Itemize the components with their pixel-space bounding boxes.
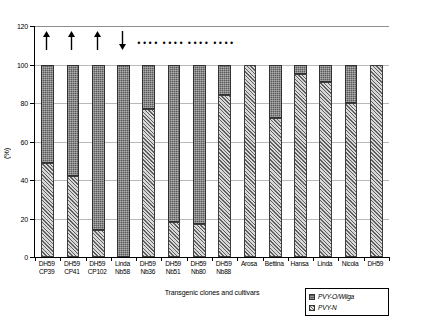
stacked-bar: [294, 26, 307, 257]
bar-segment-pvy-o: [294, 65, 307, 75]
x-axis-label-line: CP102: [85, 268, 110, 276]
bar-segment-pvy-n: [168, 222, 181, 257]
bar-group: [319, 26, 332, 257]
bar-segment-pvy-o: [67, 65, 80, 177]
dots-marker-glyphs: ••••: [211, 40, 236, 48]
bar-segment-pvy-o: [41, 65, 54, 163]
bar-group: [218, 26, 231, 257]
legend-label-pvy-n: PVY-N: [318, 304, 337, 311]
arrow-up-icon: [34, 31, 59, 50]
x-axis-label: DH59Nb88: [211, 260, 236, 277]
stacked-bar: [67, 26, 80, 257]
stacked-bar: [92, 26, 105, 257]
x-axis-label-line: Bettina: [262, 260, 287, 268]
x-axis-label: DH59CP102: [85, 260, 110, 277]
bar-segment-pvy-n: [142, 109, 155, 257]
stacked-bar: [345, 26, 358, 257]
bar-segment-pvy-o: [92, 65, 105, 231]
stacked-bar: [41, 26, 54, 257]
x-axis-label-line: DH59: [85, 260, 110, 268]
legend: PVY-O/Wilga PVY-N: [305, 288, 389, 316]
bar-segment-pvy-o: [319, 65, 332, 82]
arrow-down-icon: [110, 31, 135, 50]
x-axis-labels: DH59CP39DH59CP41DH59CP102LindaNb58DH59Nb…: [34, 260, 389, 288]
y-axis-tick: [30, 180, 35, 181]
y-axis-tick: [30, 142, 35, 143]
x-axis-label-line: CP39: [34, 268, 59, 276]
bar-segment-pvy-n: [244, 65, 257, 258]
x-axis-label-line: Nb36: [135, 268, 160, 276]
y-axis-tick-label: 100: [17, 61, 28, 68]
x-axis-label-line: Hansa: [287, 260, 312, 268]
stacked-bar: [319, 26, 332, 257]
x-axis-label: DH59Nb51: [160, 260, 185, 277]
bar-group: [41, 26, 54, 257]
dots-marker-icon: ••••: [135, 40, 160, 48]
stacked-bar: [142, 26, 155, 257]
x-axis-label-line: DH59: [135, 260, 160, 268]
dots-marker-glyphs: ••••: [186, 40, 211, 48]
x-axis-label-line: DH59: [186, 260, 211, 268]
arrow-up-icon: [59, 31, 84, 50]
bar-segment-pvy-n: [67, 176, 80, 257]
bar-series-group: [35, 26, 389, 257]
x-axis-label-line: Nb58: [110, 268, 135, 276]
bar-segment-pvy-n: [370, 65, 383, 258]
dots-marker-icon: ••••: [211, 40, 236, 48]
y-axis-tick: [30, 26, 35, 27]
stacked-bar: [244, 26, 257, 257]
bar-segment-pvy-o: [269, 65, 282, 119]
legend-label-pvy-o: PVY-O/Wilga: [318, 293, 354, 300]
y-axis-tick-label: 120: [17, 23, 28, 30]
x-axis-label-line: DH59: [211, 260, 236, 268]
stacked-bar: [218, 26, 231, 257]
y-axis-title: (%): [2, 148, 11, 159]
bar-group: [67, 26, 80, 257]
bar-group: [244, 26, 257, 257]
dots-marker-icon: ••••: [186, 40, 211, 48]
stacked-bar: [269, 26, 282, 257]
y-axis-tick: [30, 219, 35, 220]
y-axis-tick: [30, 103, 35, 104]
bar-segment-pvy-n: [41, 163, 54, 257]
y-axis-tick-label: 20: [21, 215, 28, 222]
x-axis-label-line: DH59: [363, 260, 388, 268]
x-axis-label-line: Nb51: [160, 268, 185, 276]
y-axis-tick: [30, 65, 35, 66]
chart-container: (%) 020406080100120 DH59CP39DH59CP41DH59…: [0, 0, 424, 321]
bar-segment-pvy-n: [193, 224, 206, 257]
bar-segment-pvy-n: [269, 118, 282, 257]
bar-group: [345, 26, 358, 257]
bar-segment-pvy-o: [193, 65, 206, 225]
x-axis-label: DH59CP41: [59, 260, 84, 277]
bar-segment-pvy-n: [319, 82, 332, 257]
x-axis-label: LindaNb58: [110, 260, 135, 277]
x-axis-label-line: Nb88: [211, 268, 236, 276]
bar-segment-pvy-n: [92, 230, 105, 257]
legend-item-pvy-o: PVY-O/Wilga: [309, 291, 385, 302]
x-axis-label: DH59CP39: [34, 260, 59, 277]
bar-segment-pvy-o: [117, 65, 130, 258]
x-axis-label: Arosa: [236, 260, 261, 268]
bar-segment-pvy-o: [218, 65, 231, 96]
arrow-up-icon: [85, 31, 110, 50]
dots-marker-glyphs: ••••: [135, 40, 160, 48]
x-axis-label-line: Arosa: [236, 260, 261, 268]
x-axis-label-line: Linda: [110, 260, 135, 268]
bar-group: [370, 26, 383, 257]
bar-group: [117, 26, 130, 257]
y-axis-tick-label: 0: [24, 254, 28, 261]
bar-group: [142, 26, 155, 257]
x-axis-label: Linda: [312, 260, 337, 268]
bar-group: [294, 26, 307, 257]
x-axis-label: DH59Nb36: [135, 260, 160, 277]
x-axis-label: Nicola: [337, 260, 362, 268]
legend-swatch-icon-pvy-n: [309, 305, 315, 311]
x-axis-label-line: Linda: [312, 260, 337, 268]
y-axis-tick-label: 60: [21, 138, 28, 145]
legend-swatch-icon-pvy-o: [309, 294, 315, 300]
x-axis-label-line: Nb80: [186, 268, 211, 276]
stacked-bar: [168, 26, 181, 257]
x-axis-label-line: DH59: [59, 260, 84, 268]
dots-marker-icon: ••••: [160, 40, 185, 48]
